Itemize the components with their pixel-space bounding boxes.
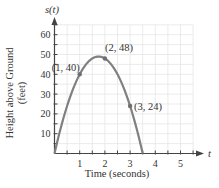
y-axis-title-line-2: (feet) [16, 81, 28, 104]
y-tick-label: 10 [41, 128, 51, 139]
y-tick-label: 60 [41, 29, 51, 40]
y-axis-symbol: s(t) [45, 4, 60, 16]
x-tick-label: 4 [153, 158, 158, 169]
y-axis-arrow-icon [52, 17, 58, 25]
x-axis-symbol: t [208, 148, 212, 159]
x-tick-label: 3 [128, 158, 133, 169]
x-axis-arrow-icon [196, 151, 204, 157]
y-tick-label: 40 [41, 69, 51, 80]
y-tick-label: 50 [41, 49, 51, 60]
point-label: (1, 40) [52, 62, 80, 74]
x-tick-label: 5 [178, 158, 183, 169]
x-tick-label: 1 [77, 158, 82, 169]
x-axis-title: Time (seconds) [85, 168, 150, 180]
y-tick-label: 20 [41, 108, 51, 119]
y-axis-title: Height above Ground (feet) [4, 47, 28, 139]
height-vs-time-chart: 12345102030405060 (1, 40)(2, 48)(3, 24) … [0, 0, 219, 188]
data-point-marker [128, 104, 132, 108]
point-label: (2, 48) [105, 42, 133, 54]
y-tick-label: 30 [41, 89, 51, 100]
point-label: (3, 24) [134, 101, 162, 113]
x-tick-label: 2 [102, 158, 107, 169]
y-axis-title-line-1: Height above Ground [4, 47, 15, 139]
data-point-marker [103, 56, 107, 60]
